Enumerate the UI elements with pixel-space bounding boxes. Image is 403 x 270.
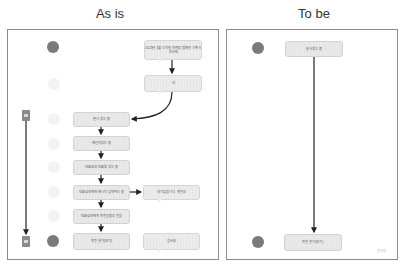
flow-arrows <box>0 0 403 270</box>
